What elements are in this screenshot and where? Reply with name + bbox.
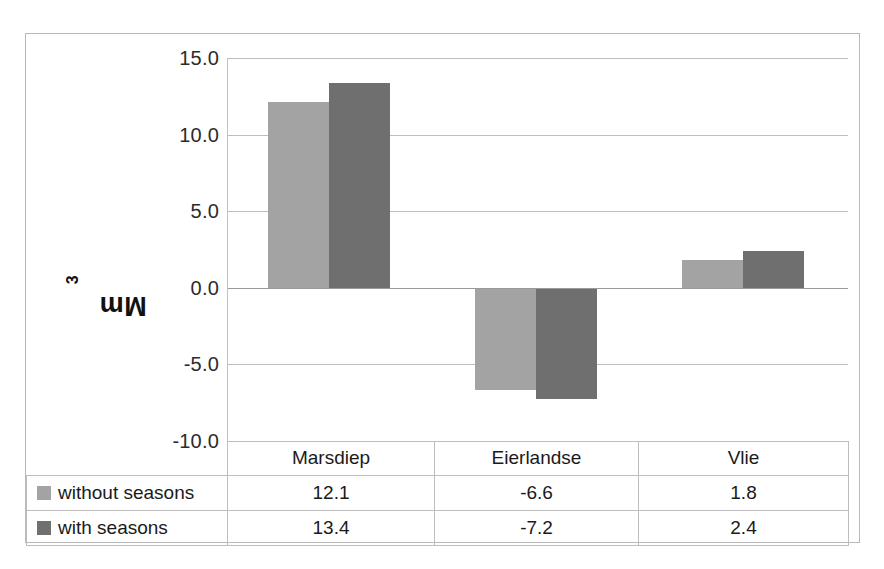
cell-without-seasons-eierlandse: -6.6 [435,476,639,511]
legend-item-with-seasons: with seasons [27,511,228,546]
bar-marsdiep-without-seasons [268,102,329,287]
table-header-marsdiep: Marsdiep [228,441,435,476]
y-axis-tick-0: 0.0 [49,278,219,298]
cell-with-seasons-marsdiep: 13.4 [228,511,435,546]
legend-item-without-seasons: without seasons [27,476,228,511]
y-axis-tick-5: 5.0 [49,201,219,221]
legend-label-without-seasons: without seasons [58,482,194,503]
table-row-without-seasons: without seasons 12.1 -6.6 1.8 [27,476,849,511]
y-axis-tick-15: 15.0 [49,48,219,68]
table-header-eierlandse: Eierlandse [435,441,639,476]
legend-swatch-without-seasons [37,486,51,500]
y-axis-tick-10: 10.0 [49,125,219,145]
table-header-vlie: Vlie [639,441,849,476]
table-corner-cell [27,441,228,476]
bar-vlie-without-seasons [682,260,743,288]
plot-area [227,58,848,441]
cell-with-seasons-eierlandse: -7.2 [435,511,639,546]
bar-marsdiep-with-seasons [329,83,390,288]
bar-vlie-with-seasons [743,251,804,288]
cell-without-seasons-vlie: 1.8 [639,476,849,511]
data-table: Marsdiep Eierlandse Vlie without seasons… [26,441,849,546]
bar-eierlandse-with-seasons [536,289,597,399]
legend-swatch-with-seasons [37,521,51,535]
y-axis-tick-labels: 15.0 10.0 5.0 0.0 -5.0 -10.0 [26,58,219,441]
table-row-with-seasons: with seasons 13.4 -7.2 2.4 [27,511,849,546]
y-axis-tick-neg5: -5.0 [49,354,219,374]
bar-eierlandse-without-seasons [475,289,536,390]
chart-frame: Mm3 15.0 10.0 5.0 0.0 -5.0 -10.0 [25,33,860,543]
table-row-categories: Marsdiep Eierlandse Vlie [27,441,849,476]
gridline-15 [228,58,848,59]
cell-with-seasons-vlie: 2.4 [639,511,849,546]
cell-without-seasons-marsdiep: 12.1 [228,476,435,511]
legend-label-with-seasons: with seasons [58,517,168,538]
